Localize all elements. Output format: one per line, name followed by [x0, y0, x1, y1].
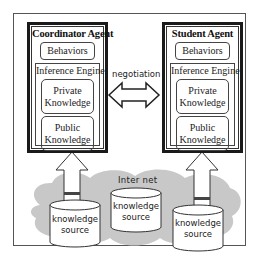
negotiation-arrow-icon: [109, 83, 159, 107]
knowledge-source-label-right: knowledge source: [173, 218, 223, 240]
negotiation-label: negotiation: [112, 69, 158, 79]
student-public-knowledge: Public Knowledge: [176, 116, 229, 151]
student-agent-inner: Student Agent Behaviors Inference Engine…: [166, 26, 239, 149]
coordinator-agent-title: Coordinator Agent: [32, 28, 103, 39]
student-private-knowledge: Private Knowledge: [176, 79, 229, 114]
coordinator-private-knowledge: Private Knowledge: [41, 79, 94, 114]
agent-architecture-diagram: Coordinator Agent Behaviors Inference En…: [0, 0, 260, 260]
student-behaviors-box: Behaviors: [175, 42, 230, 60]
coordinator-behaviors-box: Behaviors: [40, 42, 95, 60]
student-inference-engine: Inference Engine Private Knowledge Publi…: [170, 63, 235, 146]
knowledge-source-label-left: knowledge source: [50, 214, 100, 236]
coordinator-public-knowledge: Public Knowledge: [41, 116, 94, 151]
knowledge-source-label-center: knowledge source: [111, 201, 161, 223]
coordinator-agent-box: Coordinator Agent Behaviors Inference En…: [27, 22, 108, 153]
student-agent-box: Student Agent Behaviors Inference Engine…: [162, 22, 243, 153]
student-agent-title: Student Agent: [167, 28, 238, 39]
student-inference-engine-title: Inference Engine: [171, 65, 234, 76]
coordinator-inference-engine: Inference Engine Private Knowledge Publi…: [35, 63, 100, 146]
internet-label: Inter net: [118, 175, 157, 185]
coordinator-agent-inner: Coordinator Agent Behaviors Inference En…: [31, 26, 104, 149]
coordinator-inference-engine-title: Inference Engine: [36, 65, 99, 76]
